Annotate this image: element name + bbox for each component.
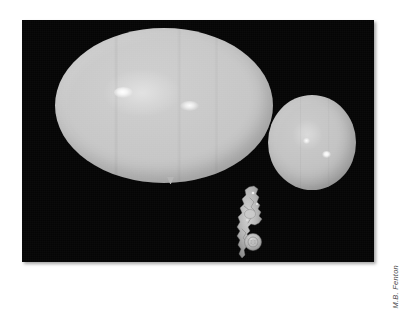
balloon-large — [55, 28, 273, 183]
balloon-small — [268, 95, 356, 190]
balloon-deflated — [234, 184, 268, 260]
photo-credit: M.B. Fenton — [391, 265, 400, 309]
photograph-plate — [22, 20, 374, 262]
